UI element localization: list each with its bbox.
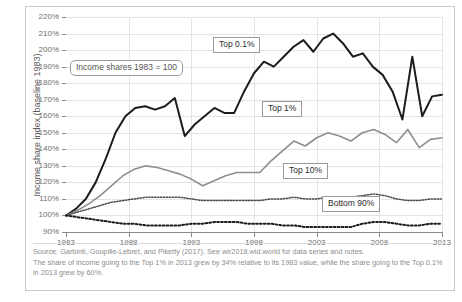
annotation-income-shares-baseline: Income shares 1983 = 100 [70, 60, 183, 76]
x-tick-mark [66, 233, 67, 237]
y-axis-title: Income share index (baseline 1983) [32, 53, 42, 196]
y-tick-label: 110% [39, 195, 59, 203]
gridline-vertical [442, 17, 443, 232]
y-tick-label: 190% [39, 63, 59, 71]
y-tick-label: 160% [39, 112, 59, 120]
y-tick-label: 90% [43, 228, 59, 236]
y-tick-label: 140% [39, 145, 59, 153]
note-description: The share of income going to the Top 1% … [33, 258, 448, 279]
y-tick-label: 170% [39, 96, 59, 104]
x-tick-mark [317, 233, 318, 237]
note-source: Source: Garbinti, Goupille-Lebret, and P… [33, 247, 448, 258]
y-tick-label: 120% [39, 178, 59, 186]
series-label-bottom-90-percent: Bottom 90% [322, 196, 380, 212]
series-label-top-10-percent: Top 10% [283, 163, 328, 179]
x-tick-mark [191, 233, 192, 237]
y-tick-label: 180% [39, 79, 59, 87]
series-label-top-0-1-percent: Top 0.1% [213, 37, 260, 53]
x-tick-mark [442, 233, 443, 237]
y-tick-label: 220% [39, 13, 59, 21]
y-tick-label: 150% [39, 129, 59, 137]
x-tick-mark [379, 233, 380, 237]
series-label-top-1-percent: Top 1% [262, 101, 302, 117]
y-tick-label: 100% [39, 211, 59, 219]
figure-notes: Source: Garbinti, Goupille-Lebret, and P… [33, 247, 448, 279]
figure-container: Income share index (baseline 1983) 220%2… [0, 0, 462, 302]
series-line-top-1 [66, 129, 442, 215]
y-tick-label: 130% [39, 162, 59, 170]
x-tick-mark [254, 233, 255, 237]
series-line-bottom-90 [66, 215, 442, 227]
y-tick-label: 200% [39, 46, 59, 54]
x-tick-mark [129, 233, 130, 237]
y-tick-label: 210% [39, 30, 59, 38]
notes-divider [33, 243, 445, 244]
series-line-top-10 [66, 194, 442, 216]
